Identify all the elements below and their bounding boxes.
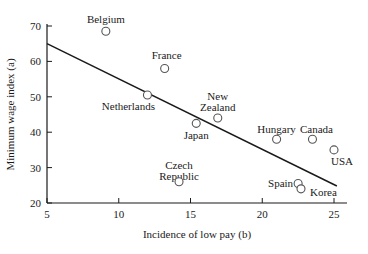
- point-label-france: France: [152, 49, 182, 61]
- y-tick-label: 60: [30, 55, 42, 67]
- data-point-canada: [308, 135, 316, 143]
- x-tick-label: 25: [329, 208, 341, 220]
- point-label-usa: USA: [331, 155, 353, 167]
- data-point-new-zealand: [214, 114, 222, 122]
- point-label-new-zealand: Zealand: [200, 101, 236, 113]
- x-tick-label: 10: [113, 208, 125, 220]
- data-point-belgium: [102, 27, 110, 35]
- data-point-france: [161, 64, 169, 72]
- scatter-chart: 510152025203040506070Incidence of low pa…: [0, 0, 368, 254]
- point-label-spain: Spain: [268, 177, 294, 189]
- y-tick-label: 30: [30, 162, 42, 174]
- x-axis-title: Incidence of low pay (b): [143, 228, 251, 241]
- x-tick-label: 5: [44, 208, 50, 220]
- y-tick-label: 40: [30, 126, 42, 138]
- data-point-netherlands: [143, 91, 151, 99]
- x-tick-label: 15: [185, 208, 197, 220]
- point-label-netherlands: Netherlands: [102, 100, 155, 112]
- data-point-japan: [192, 119, 200, 127]
- data-point-korea: [297, 185, 305, 193]
- data-point-usa: [330, 146, 338, 154]
- point-label-belgium: Belgium: [87, 13, 125, 25]
- y-axis-title: Minimum wage index (a): [4, 58, 17, 170]
- data-point-hungary: [273, 135, 281, 143]
- data-point-czech-republic: [175, 178, 183, 186]
- chart-svg: 510152025203040506070Incidence of low pa…: [0, 0, 368, 254]
- x-tick-label: 20: [257, 208, 269, 220]
- point-label-japan: Japan: [184, 129, 210, 141]
- point-label-korea: Korea: [310, 186, 337, 198]
- y-tick-label: 20: [30, 197, 42, 209]
- point-label-canada: Canada: [300, 123, 333, 135]
- point-label-hungary: Hungary: [257, 123, 296, 135]
- y-tick-label: 70: [30, 20, 42, 32]
- y-tick-label: 50: [30, 91, 42, 103]
